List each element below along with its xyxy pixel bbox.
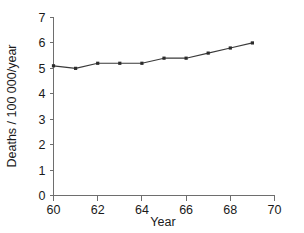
y-tick-label: 0 (39, 189, 46, 203)
y-tick-label: 7 (39, 11, 46, 25)
x-tick-label: 62 (91, 203, 105, 217)
x-tick-label: 64 (135, 203, 149, 217)
chart-container: 01234567 606264666870 Year Deaths / 100 … (0, 0, 304, 233)
x-tick-label: 68 (223, 203, 237, 217)
data-point-marker (118, 62, 121, 65)
y-tick-label: 5 (39, 62, 46, 76)
x-tick-label: 66 (179, 203, 193, 217)
data-point-marker (74, 67, 77, 70)
y-tick-label: 1 (39, 164, 46, 178)
data-point-marker (162, 57, 165, 60)
data-point-marker (96, 62, 99, 65)
y-tick-label: 6 (39, 36, 46, 50)
y-tick-label: 4 (39, 87, 46, 101)
data-point-marker (185, 57, 188, 60)
x-axis-title: Year (150, 215, 175, 229)
data-point-marker (229, 46, 232, 49)
x-tick-label: 60 (47, 203, 61, 217)
line-chart: 01234567 606264666870 Year Deaths / 100 … (0, 0, 304, 233)
data-point-marker (207, 52, 210, 55)
data-point-marker (140, 62, 143, 65)
y-tick-label: 2 (39, 138, 46, 152)
chart-background (0, 0, 304, 233)
x-tick-label: 70 (268, 203, 282, 217)
y-axis-title: Deaths / 100 000/year (5, 45, 19, 168)
y-tick-label: 3 (39, 113, 46, 127)
data-point-marker (52, 64, 55, 67)
data-point-marker (251, 41, 254, 44)
